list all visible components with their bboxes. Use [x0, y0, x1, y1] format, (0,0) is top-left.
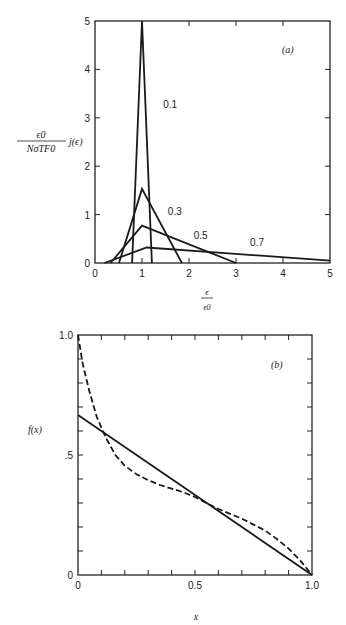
- x-axis-label-numerator: ϵ: [205, 287, 209, 297]
- series-label: 0.7: [250, 237, 264, 248]
- y-tick-label: 2: [84, 161, 90, 172]
- x-axis-label-denominator: ϵ0: [203, 303, 210, 312]
- x-tick-label: 4: [280, 268, 286, 279]
- figure: 0123450123450.10.30.50.7(a)ϵ0NσTF0j(ϵ)ϵϵ…: [0, 0, 346, 625]
- x-tick-label: 2: [186, 268, 192, 279]
- x-tick-label: 1.0: [305, 580, 319, 591]
- panel-label: (a): [282, 44, 294, 56]
- series-label: 0.1: [163, 99, 177, 110]
- x-tick-label: 5: [327, 268, 333, 279]
- y-tick-label: 5: [84, 16, 90, 27]
- y-tick-label: 0: [84, 258, 90, 269]
- x-tick-label: 0.5: [188, 580, 202, 591]
- series-label: 0.5: [194, 230, 208, 241]
- y-axis-label-denominator: NσTF0: [26, 143, 55, 154]
- y-tick-label: 4: [84, 64, 90, 75]
- y-tick-label: .5: [65, 450, 74, 461]
- x-tick-label: 0: [92, 268, 98, 279]
- x-tick-label: 0: [75, 580, 81, 591]
- y-tick-label: 1: [84, 210, 90, 221]
- series-label: 0.3: [168, 206, 182, 217]
- series-line-dashed: [78, 335, 312, 575]
- chart-panel-a: 0123450123450.10.30.50.7(a)ϵ0NσTF0j(ϵ)ϵϵ…: [17, 16, 333, 312]
- y-axis-label-numerator: ϵ0: [36, 129, 45, 140]
- y-tick-label: 0: [67, 570, 73, 581]
- y-axis-label-suffix: j(ϵ): [67, 136, 83, 148]
- x-axis-label: x: [193, 611, 199, 622]
- y-tick-label: 3: [84, 113, 90, 124]
- x-tick-label: 1: [139, 268, 145, 279]
- panel-label: (b): [271, 359, 283, 371]
- y-axis-label: f(x): [28, 424, 43, 436]
- series-line-solid: [78, 415, 312, 575]
- y-tick-label: 1.0: [59, 330, 73, 341]
- chart-panel-b: 00.51.00.51.0(b)f(x)x: [28, 330, 319, 622]
- x-tick-label: 3: [233, 268, 239, 279]
